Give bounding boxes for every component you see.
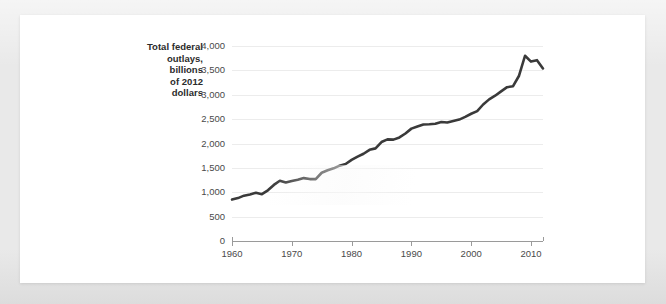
line-chart: Total federal outlays, billions of 2012 … bbox=[20, 15, 645, 283]
chart-card: Total federal outlays, billions of 2012 … bbox=[20, 15, 645, 283]
series-total-federal-outlays bbox=[20, 15, 645, 283]
